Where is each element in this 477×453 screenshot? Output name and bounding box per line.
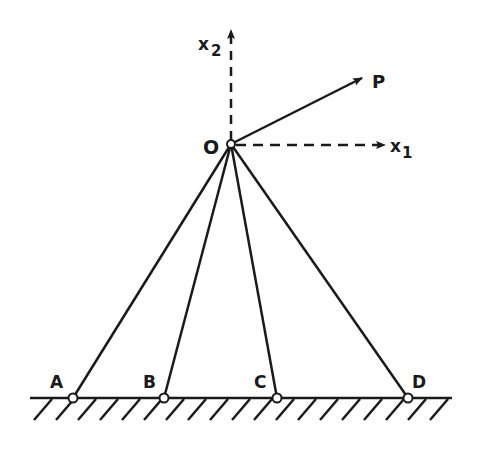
support-pin-b bbox=[160, 394, 169, 403]
origin-label: O bbox=[203, 136, 219, 158]
force-vector-p bbox=[233, 78, 362, 143]
origin-pin bbox=[227, 140, 235, 148]
support-label-b: B bbox=[143, 372, 156, 392]
support-label-c: C bbox=[254, 372, 266, 392]
member-oc bbox=[231, 144, 277, 398]
support-label-a: A bbox=[50, 372, 64, 392]
ground-hatching bbox=[34, 399, 448, 420]
member-od bbox=[231, 144, 408, 398]
x2-axis-label: x2 bbox=[198, 34, 221, 60]
support-pin-d bbox=[404, 394, 413, 403]
force-label: P bbox=[372, 71, 385, 92]
member-ob bbox=[164, 144, 231, 398]
x1-axis-label: x1 bbox=[390, 136, 412, 162]
member-oa bbox=[73, 144, 231, 398]
truss-diagram: x2 x1 P O bbox=[0, 0, 477, 453]
support-pin-a bbox=[69, 394, 78, 403]
support-label-d: D bbox=[412, 372, 426, 392]
support-pin-c bbox=[273, 394, 282, 403]
truss-members bbox=[73, 144, 408, 398]
